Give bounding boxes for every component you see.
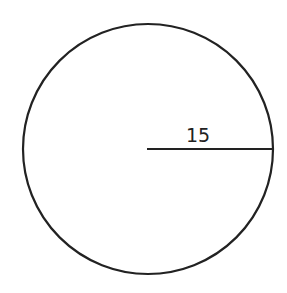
radius-label: 15 xyxy=(186,124,210,146)
circle-diagram: 15 xyxy=(0,0,287,293)
